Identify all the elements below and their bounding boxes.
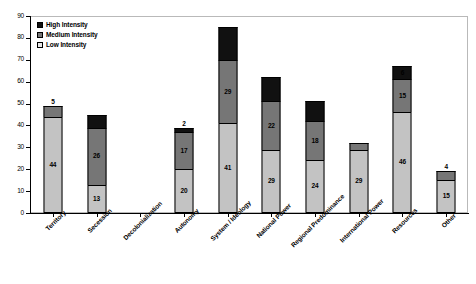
y-tick-label: 0: [2, 210, 24, 217]
y-tick-label: 60: [2, 78, 24, 85]
y-tick-mark: [26, 191, 30, 192]
bar-value-label: 15: [443, 193, 450, 200]
x-tick-group: Autonomy: [162, 214, 206, 284]
bar-segment-low[interactable]: 46: [393, 112, 412, 213]
bar-group: 1824: [293, 16, 337, 213]
bar-segment-medium[interactable]: 29: [218, 60, 237, 123]
bar-value-label: 46: [399, 159, 406, 166]
bar-segment-low[interactable]: 13: [87, 185, 106, 213]
bar-stack[interactable]: 1824: [306, 101, 325, 213]
bar-value-label: 18: [312, 138, 319, 145]
bar-value-label: 6: [401, 70, 404, 77]
bar-segment-medium[interactable]: 18: [306, 121, 325, 160]
bar-segment-high[interactable]: [262, 77, 281, 101]
y-tick-label: 30: [2, 144, 24, 151]
bar-value-label: 26: [93, 153, 100, 160]
bar-segment-low[interactable]: 15: [437, 180, 456, 213]
y-tick-label: 20: [2, 166, 24, 173]
y-tick-mark: [26, 125, 30, 126]
y-tick-mark: [26, 169, 30, 170]
y-tick-mark: [26, 213, 30, 214]
bar-stack[interactable]: 415: [437, 171, 456, 213]
x-tick-group: National Power: [250, 214, 294, 284]
y-tick-mark: [26, 82, 30, 83]
y-tick-label: 40: [2, 122, 24, 129]
x-tick-group: Territory: [31, 214, 75, 284]
bar-stack[interactable]: 2229: [262, 77, 281, 213]
y-tick-label: 90: [2, 13, 24, 20]
bar-stack[interactable]: 2941: [218, 27, 237, 213]
bar-segment-medium[interactable]: 15: [393, 79, 412, 112]
bar-segment-medium[interactable]: 5: [43, 106, 62, 117]
bar-segment-low[interactable]: 29: [262, 150, 281, 213]
y-tick-mark: [26, 147, 30, 148]
bar-group: [118, 16, 162, 213]
bar-value-label: 24: [312, 183, 319, 190]
bar-segment-medium[interactable]: 4: [437, 171, 456, 180]
y-tick-mark: [26, 16, 30, 17]
bar-group: 29: [337, 16, 381, 213]
y-tick-label: 50: [2, 100, 24, 107]
bar-group: 61546: [381, 16, 425, 213]
x-tick-group: Regional Predominance: [293, 214, 337, 284]
y-tick-mark: [26, 104, 30, 105]
bar-value-label: 44: [49, 162, 56, 169]
bar-segment-high[interactable]: 6: [393, 66, 412, 79]
bar-value-label: 15: [399, 93, 406, 100]
x-tick-group: System / Ideology: [206, 214, 250, 284]
bar-value-label: 29: [268, 178, 275, 185]
bar-group: 544: [31, 16, 75, 213]
bar-series-container: 5442613217202941222918242961546415: [31, 16, 468, 213]
bar-value-label: 17: [181, 148, 188, 155]
bar-value-label: 41: [224, 165, 231, 172]
bar-segment-low[interactable]: 29: [349, 150, 368, 213]
bar-segment-high[interactable]: [218, 27, 237, 60]
y-tick-label: 80: [2, 34, 24, 41]
x-tick-label: Other: [440, 212, 458, 230]
bar-group: 2229: [250, 16, 294, 213]
y-axis-tick-labels: 9080706050403020100: [0, 0, 30, 284]
bar-stack[interactable]: 2613: [87, 115, 106, 213]
x-tick-group: International Power: [337, 214, 381, 284]
bar-segment-high[interactable]: [306, 101, 325, 121]
y-tick-label: 70: [2, 56, 24, 63]
bar-segment-medium[interactable]: 22: [262, 101, 281, 149]
bar-group: 21720: [162, 16, 206, 213]
y-tick-label: 10: [2, 188, 24, 195]
bar-value-label: 29: [355, 178, 362, 185]
x-tick-group: Other: [424, 214, 468, 284]
x-tick-group: Resources: [381, 214, 425, 284]
bar-stack[interactable]: 544: [43, 106, 62, 213]
bar-segment-low[interactable]: 41: [218, 123, 237, 213]
bar-value-label: 13: [93, 196, 100, 203]
bar-value-label: 2: [182, 121, 185, 128]
bar-segment-low[interactable]: 44: [43, 117, 62, 213]
bar-segment-medium[interactable]: 17: [174, 132, 193, 169]
bar-value-label: 5: [51, 99, 54, 106]
bar-group: 2613: [75, 16, 119, 213]
bar-value-label: 22: [268, 123, 275, 130]
bar-segment-low[interactable]: 20: [174, 169, 193, 213]
bar-segment-medium[interactable]: 26: [87, 128, 106, 185]
x-axis-tick-labels: TerritorySecessionDecolonializationAuton…: [31, 214, 468, 284]
x-tick-group: Secession: [75, 214, 119, 284]
bar-value-label: 4: [444, 164, 447, 171]
bar-value-label: 20: [181, 188, 188, 195]
bar-segment-high[interactable]: [87, 115, 106, 128]
bar-group: 2941: [206, 16, 250, 213]
bar-value-label: 29: [224, 89, 231, 96]
bar-group: 415: [424, 16, 468, 213]
bar-segment-low[interactable]: 24: [306, 160, 325, 213]
x-tick-group: Decolonialization: [118, 214, 162, 284]
y-tick-mark: [26, 60, 30, 61]
y-tick-mark: [26, 38, 30, 39]
stacked-bar-chart: 9080706050403020100 High IntensityMedium…: [0, 0, 476, 284]
bar-stack[interactable]: 61546: [393, 66, 412, 213]
bar-stack[interactable]: 29: [349, 143, 368, 213]
bar-stack[interactable]: 21720: [174, 128, 193, 213]
